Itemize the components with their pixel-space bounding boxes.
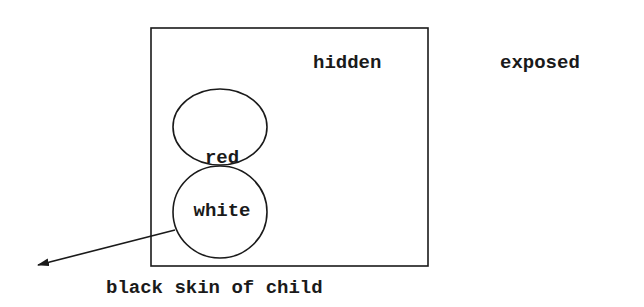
skin-arrow	[38, 230, 175, 265]
black-skin-label: black skin of child	[106, 277, 323, 299]
hidden-region-box	[151, 28, 428, 266]
hidden-label: hidden	[313, 52, 381, 74]
exposed-label: exposed	[500, 52, 580, 74]
hidden-exposed-diagram: hidden exposed red white black skin of c…	[0, 0, 644, 307]
white-circle-label: white	[193, 200, 250, 222]
